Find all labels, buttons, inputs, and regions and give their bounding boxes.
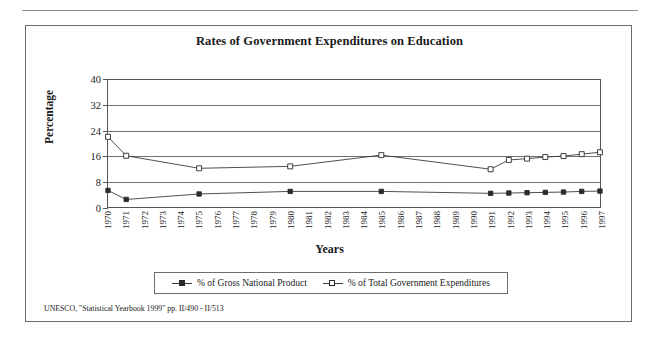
data-point-open-square [488,167,493,172]
x-tick-label: 1970 [103,211,113,229]
legend-item-total-expenditures[interactable]: % of Total Government Expenditures [323,278,490,288]
x-tick-label: 1981 [304,211,314,229]
legend-label-gnp: % of Gross National Product [197,278,307,288]
x-tick-label: 1976 [213,211,223,229]
x-tick-label: 1991 [487,211,497,229]
data-point-filled-square [580,189,584,193]
data-point-filled-square [525,191,529,195]
x-tick-label: 1984 [359,211,369,229]
legend-label-total-expenditures: % of Total Government Expenditures [348,278,490,288]
data-point-filled-square [288,189,292,193]
y-tick-label: 40 [61,74,101,85]
y-tick-label: 0 [61,203,101,214]
x-tick-label: 1972 [140,211,150,229]
x-tick-label: 1990 [469,211,479,229]
x-tick-label: 1974 [176,211,186,229]
data-point-open-square [379,153,384,158]
data-point-filled-square [488,191,492,195]
x-tick-label: 1983 [341,211,351,229]
figure-container: Rates of Government Expenditures on Educ… [25,25,632,322]
x-tick-label: 1977 [231,211,241,229]
data-point-open-square [124,153,129,158]
data-point-open-square [106,134,111,139]
source-note: UNESCO, "Statistical Yearbook 1999" pp. … [44,304,224,313]
data-point-filled-square [106,188,110,192]
x-tick-label: 1995 [560,211,570,229]
data-point-open-square [561,154,566,159]
y-tick-mark [103,208,108,209]
data-point-open-square [197,166,202,171]
legend-item-gnp[interactable]: % of Gross National Product [172,278,307,288]
chart-title: Rates of Government Expenditures on Educ… [26,34,633,49]
plot-area: 0816243240 19701971197219731974197519761… [107,79,601,208]
x-tick-label: 1997 [597,211,607,229]
series-layer [108,79,600,207]
x-tick-label: 1985 [377,211,387,229]
x-tick-label: 1992 [506,211,516,229]
x-tick-label: 1986 [396,211,406,229]
data-point-filled-square [124,197,128,201]
x-tick-label: 1993 [524,211,534,229]
x-tick-label: 1987 [414,211,424,229]
data-point-open-square [579,152,584,157]
x-tick-label: 1980 [286,211,296,229]
x-tick-label: 1973 [158,211,168,229]
data-point-open-square [506,157,511,162]
filled-square-marker-icon [172,279,192,288]
data-point-open-square [597,150,602,155]
y-tick-label: 8 [61,177,101,188]
x-tick-label: 1982 [323,211,333,229]
data-point-open-square [543,155,548,160]
x-tick-label: 1989 [451,211,461,229]
data-point-open-square [525,156,530,161]
top-divider [22,10,638,11]
x-tick-label: 1975 [194,211,204,229]
data-point-open-square [288,164,293,169]
data-point-filled-square [561,190,565,194]
x-tick-label: 1988 [432,211,442,229]
open-square-marker-icon [323,279,343,288]
x-tick-label: 1979 [268,211,278,229]
chart-page: Rates of Government Expenditures on Educ… [0,0,661,349]
y-tick-label: 24 [61,125,101,136]
series-line [108,137,600,169]
data-point-filled-square [379,189,383,193]
x-tick-label: 1996 [579,211,589,229]
y-tick-label: 32 [61,99,101,110]
y-tick-label: 16 [61,151,101,162]
x-tick-label: 1978 [249,211,259,229]
chart-legend: % of Gross National Product % of Total G… [154,272,508,294]
data-point-filled-square [598,189,602,193]
y-axis-title: Percentage [43,90,55,144]
data-point-filled-square [197,192,201,196]
x-tick-label: 1994 [542,211,552,229]
data-point-filled-square [543,190,547,194]
x-tick-label: 1971 [121,211,131,229]
x-axis-title: Years [26,242,633,257]
data-point-filled-square [507,191,511,195]
